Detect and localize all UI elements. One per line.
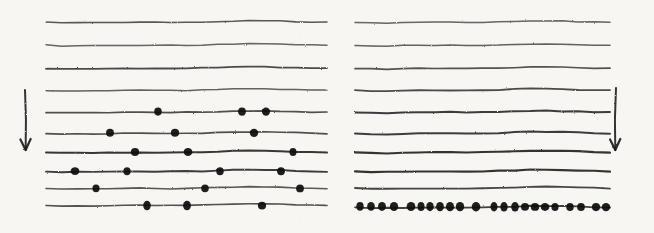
data-point-marker <box>238 107 246 115</box>
data-point-marker <box>356 202 363 211</box>
data-point-marker <box>490 202 497 211</box>
data-point-marker <box>71 167 80 175</box>
arrow-shaft <box>615 88 616 150</box>
data-point-marker <box>296 184 304 192</box>
data-point-marker <box>171 129 179 137</box>
data-point-marker <box>131 148 139 156</box>
data-point-marker <box>390 202 398 211</box>
data-point-marker <box>541 203 550 211</box>
figure-canvas <box>0 0 654 233</box>
data-point-marker <box>446 202 454 211</box>
data-point-marker <box>201 184 209 192</box>
data-point-marker <box>123 167 130 175</box>
data-point-marker <box>92 184 99 192</box>
data-point-marker <box>216 167 223 175</box>
data-point-marker <box>500 202 507 212</box>
data-point-marker <box>456 202 464 211</box>
data-point-marker <box>378 202 386 211</box>
data-point-marker <box>551 203 558 211</box>
data-point-marker <box>566 203 574 211</box>
data-point-marker <box>250 129 259 137</box>
data-point-marker <box>184 148 193 156</box>
data-point-marker <box>143 201 151 211</box>
data-point-marker <box>472 202 481 211</box>
data-point-marker <box>407 202 416 211</box>
arrow-shaft <box>25 90 26 150</box>
figure-root <box>0 0 654 233</box>
data-point-marker <box>154 107 162 115</box>
data-point-marker <box>531 203 539 211</box>
data-point-marker <box>289 148 296 156</box>
data-point-marker <box>106 129 114 137</box>
data-point-marker <box>417 202 424 211</box>
data-point-marker <box>602 203 610 211</box>
data-point-marker <box>258 202 266 210</box>
data-point-marker <box>277 167 285 175</box>
data-point-marker <box>521 203 529 211</box>
data-point-marker <box>592 203 600 211</box>
data-point-marker <box>367 202 375 211</box>
data-point-marker <box>436 202 444 211</box>
data-point-marker <box>426 202 433 211</box>
data-point-marker <box>262 107 270 115</box>
data-point-marker <box>183 201 191 211</box>
data-point-marker <box>577 203 585 211</box>
data-point-marker <box>511 202 519 212</box>
paper-background <box>0 0 654 233</box>
